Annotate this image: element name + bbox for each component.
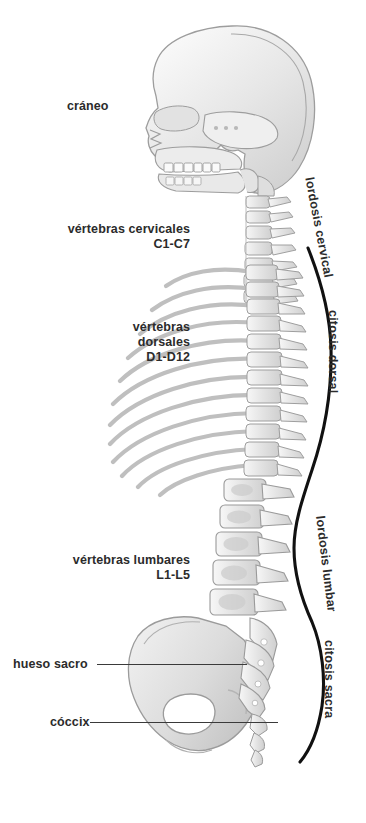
sacrum-leader-line	[97, 664, 247, 665]
label-sacrum: hueso sacro	[13, 657, 88, 672]
curve-label-citosis-dorsal: citosis dorsal	[326, 310, 340, 393]
thoracic-vertebrae-group	[244, 265, 308, 476]
curve-label-citosis-sacra: citosis sacra	[322, 640, 336, 718]
label-lumbar-vertebrae: vértebras lumbares L1-L5	[20, 553, 190, 583]
coccyx-leader-line	[90, 722, 278, 723]
label-dorsal-vertebrae: vértebras dorsales D1-D12	[20, 320, 190, 365]
label-skull: cráneo	[67, 99, 109, 114]
label-coccyx: cóccix	[50, 715, 90, 730]
spine-anatomy-figure: cráneo vértebras cervicales C1-C7 vérteb…	[0, 0, 366, 823]
skeleton-illustration	[0, 0, 366, 823]
ribcage-group	[110, 270, 259, 495]
label-cervical-vertebrae: vértebras cervicales C1-C7	[20, 222, 190, 252]
skull-group	[146, 26, 315, 196]
sacrum-group	[239, 618, 277, 719]
lumbar-vertebrae-group	[210, 479, 294, 615]
